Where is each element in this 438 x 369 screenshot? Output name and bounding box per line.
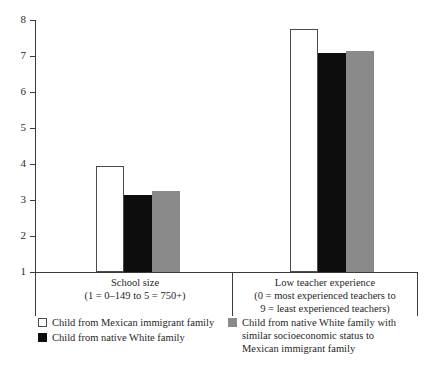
legend-label-native-white: Child from native White family — [52, 331, 185, 344]
legend-item-native-white-ses: Child from native White family with simi… — [228, 316, 436, 355]
category-title-low-teacher-experience: Low teacher experience — [234, 276, 416, 289]
bar-school-size-native-white — [124, 195, 152, 272]
category-caption-school-size: School size (1 = 0–149 to 5 = 750+) — [46, 276, 224, 302]
bar-chart-figure: 8 7 6 5 4 3 2 1 School size (1 = 0–149 t… — [0, 0, 438, 369]
group-separator-right — [417, 272, 418, 316]
group-separator-middle — [232, 272, 233, 316]
legend-label-mexican-immigrant: Child from Mexican immigrant family — [52, 316, 214, 329]
legend-label-native-white-ses-line2: similar socioeconomic status to — [242, 329, 396, 342]
bars-layer — [0, 0, 438, 272]
legend-swatch-gray-icon — [228, 318, 237, 327]
legend-label-native-white-ses: Child from native White family with simi… — [242, 316, 396, 355]
plot-area: 8 7 6 5 4 3 2 1 School size (1 = 0–149 t… — [0, 0, 438, 300]
group-separator-left — [35, 272, 36, 316]
legend-item-native-white: Child from native White family — [38, 331, 243, 344]
legend-column-right: Child from native White family with simi… — [228, 316, 436, 357]
category-title-school-size: School size — [46, 276, 224, 289]
category-subtitle-low-teacher-experience-line1: (0 = most experienced teachers to — [234, 289, 416, 302]
bar-school-size-mexican-immigrant — [96, 166, 124, 272]
bar-low-teacher-experience-native-white-ses — [346, 51, 374, 272]
legend-label-native-white-ses-line1: Child from native White family with — [242, 316, 396, 329]
legend-swatch-black-icon — [38, 333, 47, 342]
bar-low-teacher-experience-mexican-immigrant — [290, 29, 318, 272]
category-subtitle-school-size-line1: (1 = 0–149 to 5 = 750+) — [46, 289, 224, 302]
bar-school-size-native-white-ses — [152, 191, 180, 272]
x-axis-baseline — [35, 272, 418, 273]
category-subtitle-low-teacher-experience-line2: 9 = least experienced teachers) — [234, 302, 416, 315]
legend-label-native-white-ses-line3: Mexican immigrant family — [242, 342, 396, 355]
chart-legend: Child from Mexican immigrant family Chil… — [0, 316, 438, 369]
legend-column-left: Child from Mexican immigrant family Chil… — [38, 316, 243, 346]
bar-low-teacher-experience-native-white — [318, 53, 346, 272]
category-caption-low-teacher-experience: Low teacher experience (0 = most experie… — [234, 276, 416, 315]
legend-item-mexican-immigrant: Child from Mexican immigrant family — [38, 316, 243, 329]
legend-swatch-white-icon — [38, 318, 47, 327]
